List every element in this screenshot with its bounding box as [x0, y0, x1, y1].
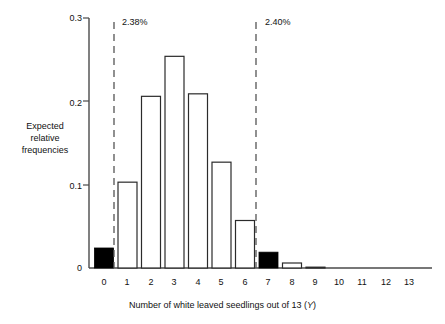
bar-0 — [95, 248, 114, 268]
bar-5 — [212, 162, 231, 268]
bar-2 — [142, 96, 161, 268]
bar-series — [95, 56, 326, 268]
bar-6 — [236, 221, 255, 269]
bar-8 — [283, 263, 302, 268]
chart-figure: Expected relative frequencies Number of … — [0, 0, 445, 324]
bar-9 — [306, 267, 325, 268]
bar-1 — [118, 182, 137, 268]
bar-4 — [189, 94, 208, 268]
bar-7 — [259, 252, 278, 268]
plot-area — [0, 0, 445, 324]
bar-3 — [165, 56, 184, 268]
